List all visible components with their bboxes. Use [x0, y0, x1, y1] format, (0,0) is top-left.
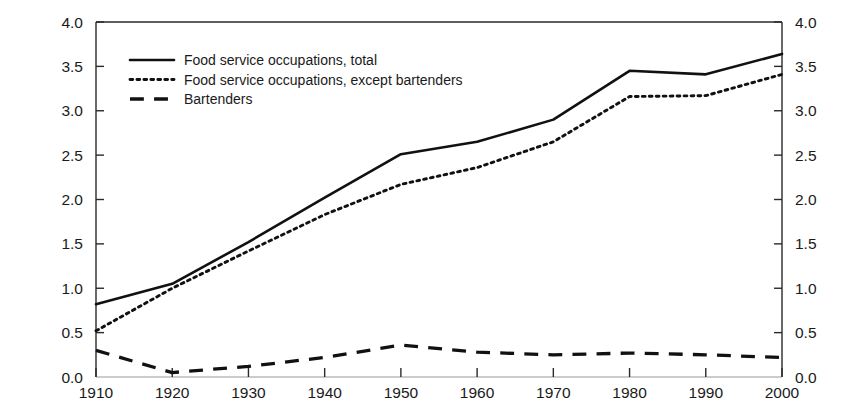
x-tick-label: 1990: [689, 384, 724, 401]
y-tick-label-left: 2.0: [61, 191, 83, 208]
y-tick-label-right: 0.5: [795, 324, 817, 341]
x-tick-label: 1920: [155, 384, 190, 401]
x-tick-label: 1910: [79, 384, 114, 401]
x-tick-label: 1980: [612, 384, 647, 401]
y-tick-label-left: 1.0: [61, 280, 83, 297]
x-tick-label: 1960: [460, 384, 495, 401]
legend-label-1: Food service occupations, total: [184, 52, 377, 68]
y-tick-label-right: 4.0: [795, 14, 817, 31]
x-tick-label: 1970: [536, 384, 571, 401]
series-line-2: [96, 74, 782, 330]
y-tick-label-left: 0.0: [61, 369, 83, 386]
y-tick-label-left: 3.5: [61, 58, 83, 75]
x-axis: 1910192019301940195019601970198019902000: [79, 368, 800, 401]
y-tick-label-right: 2.5: [795, 147, 817, 164]
x-tick-label: 1930: [231, 384, 266, 401]
y-tick-label-right: 1.5: [795, 235, 817, 252]
legend: Food service occupations, totalFood serv…: [130, 52, 463, 107]
line-chart-canvas: 4.03.53.02.52.01.51.00.50.04.03.53.02.52…: [0, 0, 848, 415]
y-tick-label-right: 0.0: [795, 369, 817, 386]
y-tick-label-right: 3.0: [795, 102, 817, 119]
x-tick-label: 1940: [307, 384, 342, 401]
y-axis-right: 4.03.53.02.52.01.51.00.50.0: [774, 14, 817, 386]
chart-figure: 4.03.53.02.52.01.51.00.50.04.03.53.02.52…: [0, 0, 848, 415]
y-tick-label-left: 3.0: [61, 102, 83, 119]
y-tick-label-left: 4.0: [61, 14, 83, 31]
y-tick-label-right: 1.0: [795, 280, 817, 297]
x-tick-label: 1950: [384, 384, 419, 401]
y-tick-label-left: 1.5: [61, 235, 83, 252]
y-tick-label-left: 2.5: [61, 147, 83, 164]
x-tick-label: 2000: [765, 384, 800, 401]
legend-label-3: Bartenders: [184, 91, 252, 107]
series-line-3: [96, 345, 782, 373]
y-tick-label-right: 2.0: [795, 191, 817, 208]
legend-label-2: Food service occupations, except bartend…: [184, 72, 463, 88]
y-tick-label-right: 3.5: [795, 58, 817, 75]
y-tick-label-left: 0.5: [61, 324, 83, 341]
